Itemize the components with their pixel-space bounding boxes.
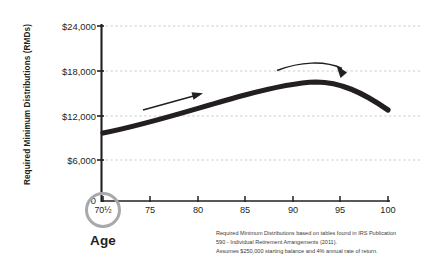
y-tick-label-24000: $24,000 [62,21,96,32]
x-tick-label-70-half: 70½ [94,205,111,215]
footnote-line-2: 590 - Individual Retirement Arrangements… [216,238,431,247]
x-axis-title: Age [90,233,116,248]
y-tick-label-18000: $18,000 [62,66,96,77]
x-tick-label-85: 85 [240,205,250,215]
footnote-line-1: Required Minimum Distributions based on … [216,229,431,238]
x-tick-label-100: 100 [380,205,395,215]
footnote-line-3: Assumes $250,000 starting balance and 4%… [216,247,431,256]
chart-container: Required Minimum Distributions (RMDs) [0,0,435,268]
x-tick-label-80: 80 [193,205,203,215]
x-tick-label-90: 90 [288,205,298,215]
x-tick-label-75: 75 [145,205,155,215]
y-tick-label-6000: $6,000 [67,155,96,166]
x-tick-label-95: 95 [335,205,345,215]
rmd-curve [103,82,388,133]
y-tick-label-12000: $12,000 [62,111,96,122]
plot-area [0,0,435,268]
footnote: Required Minimum Distributions based on … [216,229,431,256]
